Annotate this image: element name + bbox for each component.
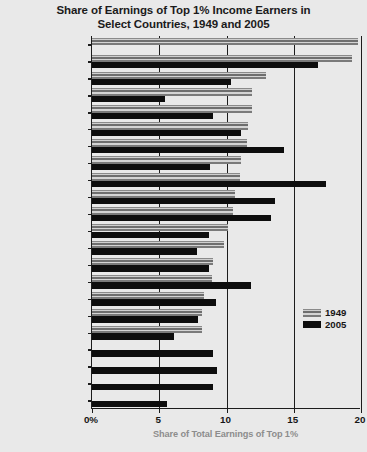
bar-1949-france bbox=[92, 258, 213, 265]
bar-1949-sweden bbox=[92, 326, 202, 333]
x-axis-title: Share of Total Earnings of Top 1% bbox=[91, 429, 360, 439]
x-tick-label-20: 20 bbox=[340, 414, 367, 425]
bar-2005-germany bbox=[92, 130, 241, 136]
bar-2005-netherlands bbox=[92, 96, 165, 102]
chart-title-line-1: Share of Earnings of Top 1% Income Earne… bbox=[0, 3, 367, 17]
bar-row: Switzerland bbox=[92, 239, 360, 256]
bar-1949-norway bbox=[92, 275, 212, 282]
bar-2005-australia bbox=[92, 164, 210, 170]
x-tick-label-10: 10 bbox=[206, 414, 246, 425]
bar-2005-united-states bbox=[92, 181, 326, 187]
bar-2005-india bbox=[92, 113, 213, 119]
bar-1949-canada bbox=[92, 190, 235, 197]
bar-1949-ireland bbox=[92, 72, 266, 79]
bar-row: China bbox=[92, 392, 360, 409]
bar-1949-japan bbox=[92, 292, 204, 299]
bar-2005-united-kingdom bbox=[92, 147, 284, 153]
bar-1949-indonesia bbox=[92, 38, 358, 45]
legend-label-1949: 1949 bbox=[325, 307, 346, 318]
bar-row: Ireland bbox=[92, 70, 360, 87]
bar-2005-canada bbox=[92, 198, 275, 204]
bar-2005-argentina bbox=[92, 62, 318, 68]
bar-row: Australia bbox=[92, 155, 360, 172]
bar-2005-france bbox=[92, 265, 209, 271]
x-tick-label-15: 15 bbox=[273, 414, 313, 425]
bar-row: Germany bbox=[92, 121, 360, 138]
bar-1949-india bbox=[92, 105, 252, 112]
bar-1949-singapore bbox=[92, 207, 233, 214]
bar-2005-china bbox=[92, 401, 167, 407]
bar-2005-portugal bbox=[92, 367, 217, 373]
bar-1949-united-kingdom bbox=[92, 139, 247, 146]
bar-row: France bbox=[92, 256, 360, 273]
bar-row: Netherlands bbox=[92, 87, 360, 104]
bar-row: Portugal bbox=[92, 358, 360, 375]
legend-swatch-1949 bbox=[303, 309, 321, 317]
bar-2005-italy bbox=[92, 384, 213, 390]
plot-area: IndonesiaArgentinaIrelandNetherlandsIndi… bbox=[91, 36, 360, 409]
bar-2005-ireland bbox=[92, 79, 231, 85]
bar-2005-new-zealand bbox=[92, 232, 209, 238]
bar-1949-switzerland bbox=[92, 241, 224, 248]
bar-row: Japan bbox=[92, 290, 360, 307]
bar-2005-singapore bbox=[92, 215, 271, 221]
bar-row: New Zealand bbox=[92, 223, 360, 240]
bar-1949-argentina bbox=[92, 55, 352, 62]
bar-1949-united-states bbox=[92, 173, 240, 180]
bar-row: India bbox=[92, 104, 360, 121]
gridline-20 bbox=[361, 36, 362, 408]
bar-row: United Kingdom bbox=[92, 138, 360, 155]
bar-2005-norway bbox=[92, 282, 251, 288]
bar-1949-germany bbox=[92, 122, 248, 129]
bar-row: Italy bbox=[92, 375, 360, 392]
bar-row: Canada bbox=[92, 189, 360, 206]
bar-row: Spain bbox=[92, 341, 360, 358]
x-tick-20 bbox=[361, 408, 362, 413]
bar-1949-australia bbox=[92, 156, 241, 163]
legend-item-2005: 2005 bbox=[303, 319, 363, 330]
chart-legend: 1949 2005 bbox=[303, 307, 363, 331]
x-tick-label-5: 5 bbox=[138, 414, 178, 425]
bar-2005-spain bbox=[92, 350, 213, 356]
bar-1949-finland bbox=[92, 309, 202, 316]
bar-row: United States bbox=[92, 172, 360, 189]
bar-row: Argentina bbox=[92, 53, 360, 70]
legend-item-1949: 1949 bbox=[303, 307, 363, 318]
bar-1949-netherlands bbox=[92, 88, 252, 95]
bar-1949-new-zealand bbox=[92, 224, 228, 231]
chart-title-line-2: Select Countries, 1949 and 2005 bbox=[0, 17, 367, 31]
bar-2005-sweden bbox=[92, 333, 174, 339]
bar-2005-japan bbox=[92, 299, 216, 305]
bar-chart: Share of Earnings of Top 1% Income Earne… bbox=[0, 0, 367, 452]
bar-row: Indonesia bbox=[92, 36, 360, 53]
legend-swatch-2005 bbox=[303, 321, 321, 328]
bar-row: Singapore bbox=[92, 206, 360, 223]
bar-2005-finland bbox=[92, 316, 198, 322]
chart-title: Share of Earnings of Top 1% Income Earne… bbox=[0, 3, 367, 31]
bar-row: Norway bbox=[92, 273, 360, 290]
bar-2005-switzerland bbox=[92, 248, 197, 254]
legend-label-2005: 2005 bbox=[325, 319, 346, 330]
x-tick-label-0%: 0% bbox=[71, 414, 111, 425]
